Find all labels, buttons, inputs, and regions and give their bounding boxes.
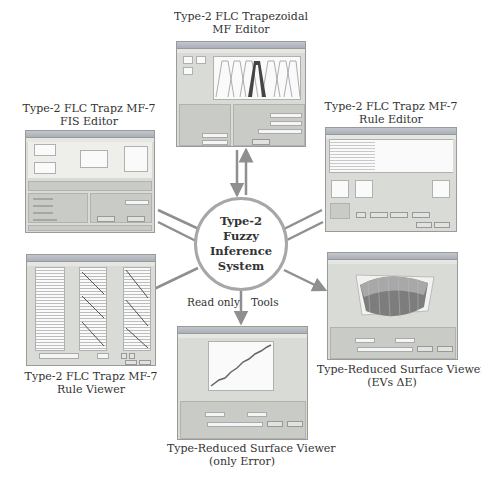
- help-button[interactable]: [416, 222, 432, 228]
- fis-editor-caption: Type-2 FLC Trapz MF-7 FIS Editor: [14, 102, 164, 128]
- close-button[interactable]: [434, 222, 450, 228]
- range-field[interactable]: [202, 133, 228, 138]
- output-rule-column[interactable]: [123, 267, 151, 351]
- display-range-field[interactable]: [202, 140, 228, 145]
- surface-viewer-evs-window: [327, 252, 458, 360]
- mf-name-field[interactable]: [270, 113, 302, 118]
- connection-panel: [330, 203, 350, 219]
- error-plot: [208, 341, 274, 391]
- read-only-label: Read only: [187, 296, 240, 308]
- delta-error-rule-column[interactable]: [79, 267, 107, 351]
- mf-editor-window: [176, 41, 306, 147]
- change-rule-button[interactable]: [412, 212, 430, 218]
- weight-field[interactable]: [356, 212, 366, 218]
- surface-controls: [330, 327, 456, 359]
- fuzzy-inference-system-node: Type-2 Fuzzy Inference System: [194, 197, 288, 291]
- mf-params-field[interactable]: [258, 129, 302, 134]
- input-error-block[interactable]: [34, 144, 56, 156]
- surface-3d-plot: [348, 267, 442, 323]
- x-grids-field[interactable]: [205, 412, 225, 417]
- close-button[interactable]: [127, 216, 145, 222]
- rule-editor-window: [325, 127, 457, 232]
- fis-variable-panel: [90, 193, 152, 223]
- input-field[interactable]: [39, 353, 79, 359]
- mf-type-field[interactable]: [270, 121, 302, 126]
- help-button[interactable]: [97, 216, 115, 222]
- rule-viewer-window: [26, 254, 156, 366]
- y-grids-field[interactable]: [247, 412, 267, 417]
- plot-points-field[interactable]: [97, 353, 109, 359]
- rule-editor-caption: Type-2 FLC Trapz MF-7 Rule Editor: [316, 100, 466, 126]
- input-delta-error-block[interactable]: [34, 162, 56, 174]
- surface-viewer-error-caption: Type-Reduced Surface Viewer (only Error): [167, 442, 317, 468]
- tools-label: Tools: [251, 296, 279, 308]
- x-grids-field[interactable]: [355, 338, 375, 343]
- ref-input-field[interactable]: [207, 422, 263, 427]
- surface-viewer-error-window: [177, 326, 308, 440]
- output-block[interactable]: [124, 146, 148, 172]
- close-button[interactable]: [437, 346, 453, 352]
- help-button[interactable]: [267, 421, 283, 427]
- mf-editor-right-panel: [233, 104, 305, 146]
- ref-input-field[interactable]: [357, 347, 413, 352]
- fis-editor-window: [25, 130, 155, 233]
- error-rule-column[interactable]: [35, 267, 65, 351]
- add-rule-button[interactable]: [390, 212, 408, 218]
- output-icon: [196, 56, 206, 64]
- center-label-line1: Type-2: [220, 214, 262, 228]
- move-left-button[interactable]: [121, 353, 127, 359]
- help-button[interactable]: [125, 360, 137, 365]
- delete-rule-button[interactable]: [370, 212, 388, 218]
- center-label-line2: Fuzzy: [223, 229, 259, 243]
- move-right-button[interactable]: [129, 353, 135, 359]
- and-delta-error-listbox[interactable]: [355, 180, 373, 198]
- if-error-listbox[interactable]: [331, 180, 349, 198]
- surface-viewer-evs-caption: Type-Reduced Surface Viewer (EVs ΔE): [317, 363, 467, 389]
- mf-editor-caption: Type-2 FLC Trapezoidal MF Editor: [166, 10, 316, 36]
- mf-editor-left-panel: [179, 104, 231, 146]
- center-label-line3: Inference: [210, 244, 272, 258]
- error-output-line: [209, 342, 273, 390]
- mf-plot: [213, 56, 301, 100]
- close-button[interactable]: [287, 421, 303, 427]
- then-output-listbox[interactable]: [432, 180, 450, 198]
- trapezoid-mf-plot: [214, 57, 300, 99]
- rule-list[interactable]: [329, 139, 453, 173]
- rule-viewer-caption: Type-2 FLC Trapz MF-7 Rule Viewer: [16, 370, 166, 396]
- system-icon: [183, 67, 193, 75]
- input-icon: [183, 56, 193, 64]
- fis-properties-panel: [28, 193, 88, 223]
- fis-system-block[interactable]: [80, 150, 108, 168]
- center-label-line4: System: [218, 259, 264, 273]
- help-button[interactable]: [417, 346, 433, 352]
- status-bar: [28, 225, 152, 231]
- help-button[interactable]: [252, 139, 270, 145]
- surface-controls: [180, 401, 306, 439]
- variable-name-field[interactable]: [125, 200, 149, 205]
- close-button[interactable]: [139, 360, 151, 365]
- y-grids-field[interactable]: [395, 338, 415, 343]
